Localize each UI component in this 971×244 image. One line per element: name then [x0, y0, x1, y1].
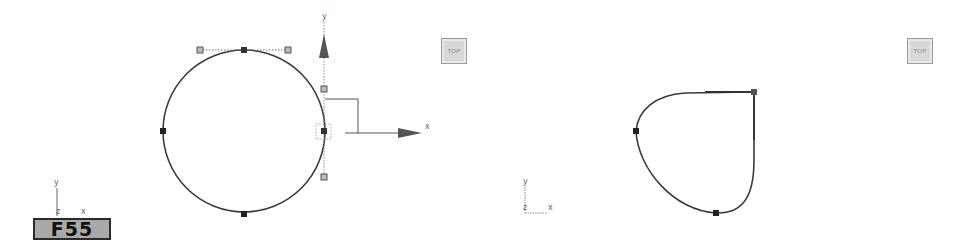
circle-spline[interactable] [163, 50, 325, 212]
vertex-top[interactable] [241, 47, 247, 53]
viewport-canvas[interactable] [485, 0, 971, 244]
vertex-left[interactable] [633, 128, 639, 134]
vertex-left[interactable] [160, 128, 166, 134]
viewport-canvas[interactable] [0, 0, 485, 244]
gizmo-x-arrow-icon[interactable] [398, 128, 422, 138]
tangent-handle-right[interactable] [285, 47, 291, 53]
tripod-y-label: y [523, 177, 528, 186]
tripod-x-label: x [548, 203, 553, 212]
vertex-right-selected[interactable] [321, 128, 327, 134]
gizmo-y-label: y [322, 12, 327, 21]
vertex-corner[interactable] [751, 89, 757, 95]
gizmo-y-arrow-icon[interactable] [319, 34, 329, 58]
gizmo-x-label: x [425, 122, 430, 131]
tripod-z-label: z [523, 203, 527, 212]
vertex-bottom[interactable] [713, 210, 719, 216]
viewcube-label: TOP [448, 48, 461, 54]
viewport-top-left[interactable]: y x y z x TOP F55 [0, 0, 485, 244]
tripod-x-label: x [81, 207, 86, 216]
teardrop-spline[interactable] [636, 92, 754, 213]
tripod-z-label: z [56, 207, 60, 216]
viewcube-label: TOP [914, 48, 927, 54]
tangent-handle-left[interactable] [197, 47, 203, 53]
viewcube-top[interactable]: TOP [441, 38, 467, 64]
tripod-y-label: y [54, 178, 59, 187]
figure-label: F55 [33, 218, 111, 240]
viewcube-top[interactable]: TOP [907, 38, 933, 64]
tangent-handle-lower[interactable] [321, 174, 327, 180]
gizmo-plane-bracket[interactable] [325, 99, 358, 133]
viewport-top-right[interactable]: y z x TOP [485, 0, 971, 244]
vertex-bottom[interactable] [241, 211, 247, 217]
tangent-handle-upper[interactable] [321, 86, 327, 92]
